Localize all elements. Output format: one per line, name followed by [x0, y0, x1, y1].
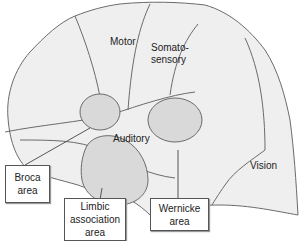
label-auditory: Auditory — [113, 133, 150, 145]
callout-broca-line2: area — [17, 184, 37, 197]
callout-limbic-line1: Limbic — [81, 200, 110, 213]
callout-broca-line1: Broca — [14, 171, 40, 184]
callout-limbic: Limbic association area — [64, 198, 126, 241]
callout-wernicke: Wernicke area — [150, 198, 209, 231]
broca-region — [80, 94, 120, 130]
label-motor: Motor — [110, 36, 136, 48]
callout-wernicke-line1: Wernicke — [159, 202, 201, 215]
callout-broca: Broca area — [5, 165, 50, 203]
label-vision: Vision — [250, 160, 277, 172]
label-somatosensory-2: sensory — [151, 54, 186, 66]
wernicke-region — [148, 98, 202, 142]
callout-limbic-line2: association — [70, 213, 120, 226]
callout-limbic-line3: area — [85, 226, 105, 239]
callout-wernicke-line2: area — [169, 215, 189, 228]
label-somatosensory-1: Somato- — [151, 42, 189, 54]
